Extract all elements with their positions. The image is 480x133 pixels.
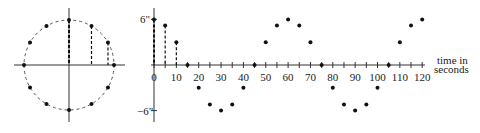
ymax-label: 6" <box>140 13 150 25</box>
svg-text:90: 90 <box>350 71 362 83</box>
diagram: 0102030405060708090100110120 6" −6" time… <box>0 0 480 133</box>
svg-text:20: 20 <box>193 71 205 83</box>
svg-text:60: 60 <box>283 71 295 83</box>
svg-text:110: 110 <box>392 71 409 83</box>
svg-text:10: 10 <box>171 71 183 83</box>
svg-text:40: 40 <box>238 71 250 83</box>
svg-text:0: 0 <box>151 71 157 83</box>
svg-text:120: 120 <box>414 71 431 83</box>
svg-text:50: 50 <box>260 71 272 83</box>
svg-text:100: 100 <box>369 71 386 83</box>
chart: 0102030405060708090100110120 <box>151 8 431 122</box>
ymin-label: −6" <box>137 105 153 117</box>
svg-text:70: 70 <box>305 71 317 83</box>
svg-text:80: 80 <box>327 71 339 83</box>
unit-circle <box>14 8 125 122</box>
svg-text:30: 30 <box>216 71 228 83</box>
xlabel-line2: seconds <box>434 63 469 75</box>
